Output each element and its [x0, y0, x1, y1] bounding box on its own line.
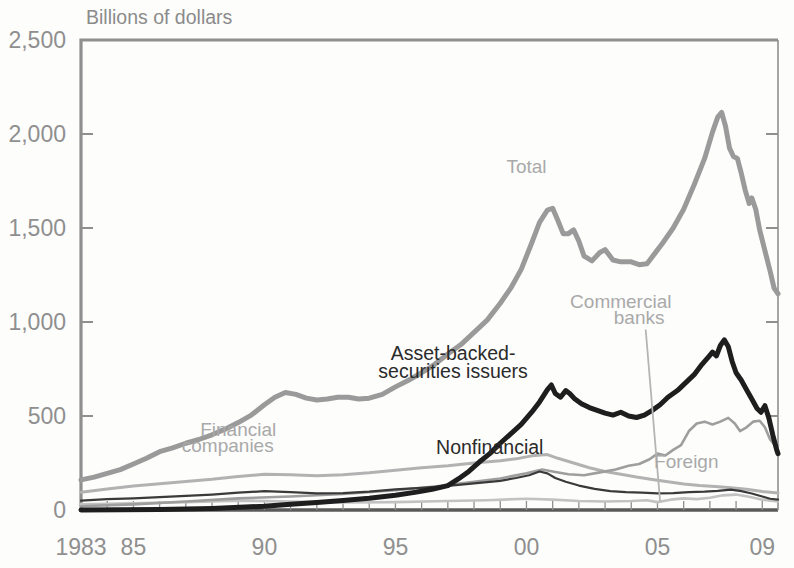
x-axis-tick-label: 00 — [514, 534, 540, 560]
series-annotation: Total — [506, 156, 546, 177]
y-axis-tick-label: 500 — [28, 403, 66, 429]
chart-figure: 05001,0001,5002,0002,5001983859095000509… — [0, 0, 794, 568]
x-axis-tick-label: 90 — [252, 534, 278, 560]
x-axis-tick-label: 05 — [645, 534, 671, 560]
y-axis-tick-label: 1,500 — [8, 215, 66, 241]
series-annotation: banks — [614, 307, 665, 328]
y-axis-tick-label: 2,500 — [8, 27, 66, 53]
commercial-paper-line-chart: 05001,0001,5002,0002,5001983859095000509… — [0, 0, 794, 568]
series-annotation: securities issuers — [378, 360, 528, 382]
y-axis-tick-label: 1,000 — [8, 309, 66, 335]
x-axis-tick-label: 85 — [121, 534, 147, 560]
y-axis-title: Billions of dollars — [86, 6, 233, 28]
x-axis-tick-label: 09 — [749, 534, 775, 560]
series-annotation: companies — [182, 435, 274, 456]
y-axis-tick-label: 0 — [53, 497, 66, 523]
series-annotation: Nonfinancial — [436, 436, 543, 458]
x-axis-tick-label: 95 — [383, 534, 409, 560]
series-annotation: Foreign — [654, 451, 718, 472]
x-axis-tick-label: 1983 — [55, 534, 106, 560]
y-axis-tick-label: 2,000 — [8, 121, 66, 147]
